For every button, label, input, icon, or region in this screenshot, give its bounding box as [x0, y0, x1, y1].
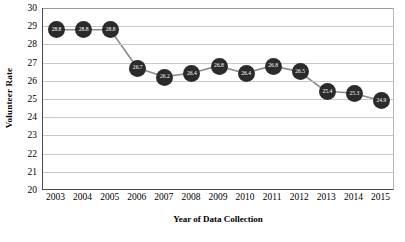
x-tick-label: 2013 [317, 192, 336, 202]
y-axis-tick-labels: 3029282726252423222120 [18, 8, 40, 190]
gridline [43, 154, 393, 155]
x-axis-tick-labels: 2003200420052006200720082009201020112012… [42, 192, 394, 212]
data-point-marker: 26.5 [292, 63, 309, 80]
y-axis-title: Volunteer Rate [0, 0, 18, 196]
x-tick-label: 2007 [154, 192, 173, 202]
x-tick-label: 2006 [127, 192, 146, 202]
x-tick-label: 2008 [181, 192, 200, 202]
gridline [43, 172, 393, 173]
y-tick-label: 20 [28, 185, 38, 195]
gridline [43, 99, 393, 100]
plot-area: 28.828.828.826.726.226.426.826.426.826.5… [42, 8, 394, 190]
x-tick-label: 2003 [46, 192, 65, 202]
gridline [43, 117, 393, 118]
x-tick-label: 2005 [100, 192, 119, 202]
x-tick-label: 2010 [236, 192, 255, 202]
gridline [43, 26, 393, 27]
data-point-marker: 26.8 [211, 58, 228, 75]
x-tick-label: 2014 [344, 192, 363, 202]
gridline [43, 8, 393, 9]
y-tick-label: 27 [28, 58, 38, 68]
y-tick-label: 24 [28, 112, 38, 122]
y-tick-label: 28 [28, 39, 38, 49]
x-tick-label: 2015 [371, 192, 390, 202]
y-tick-label: 23 [28, 130, 38, 140]
y-tick-label: 22 [28, 149, 38, 159]
data-point-marker: 26.2 [156, 69, 173, 86]
x-tick-label: 2009 [209, 192, 228, 202]
y-tick-label: 29 [28, 21, 38, 31]
gridline [43, 44, 393, 45]
data-point-marker: 25.3 [346, 85, 363, 102]
y-axis-title-text: Volunteer Rate [4, 68, 14, 129]
x-tick-label: 2011 [263, 192, 282, 202]
y-tick-label: 21 [28, 167, 38, 177]
volunteer-rate-line-chart: Volunteer Rate 3029282726252423222120 28… [0, 0, 405, 242]
x-axis-title: Year of Data Collection [42, 214, 394, 224]
y-tick-label: 25 [28, 94, 38, 104]
x-tick-label: 2004 [73, 192, 92, 202]
gridline [43, 135, 393, 136]
data-point-marker: 26.7 [129, 60, 146, 77]
data-point-marker: 26.8 [265, 58, 282, 75]
x-tick-label: 2012 [290, 192, 309, 202]
data-point-marker: 25.4 [319, 83, 336, 100]
y-tick-label: 30 [28, 3, 38, 13]
gridline [43, 81, 393, 82]
data-point-marker: 26.4 [238, 65, 255, 82]
y-tick-label: 26 [28, 76, 38, 86]
